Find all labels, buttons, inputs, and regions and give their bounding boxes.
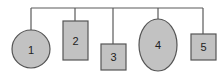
node-2-label: 2 <box>72 35 78 47</box>
node-3-square: 3 <box>101 44 126 70</box>
node-3-label: 3 <box>110 51 116 63</box>
node-1-circle: 1 <box>12 30 50 68</box>
hierarchy-diagram: 1 2 3 4 5 <box>0 0 221 72</box>
node-1-label: 1 <box>28 44 34 56</box>
node-5-square: 5 <box>191 34 216 60</box>
node-2-rectangle: 2 <box>63 21 88 60</box>
node-5-label: 5 <box>200 41 206 53</box>
node-4-label: 4 <box>155 39 161 51</box>
node-4-ellipse: 4 <box>139 19 177 71</box>
